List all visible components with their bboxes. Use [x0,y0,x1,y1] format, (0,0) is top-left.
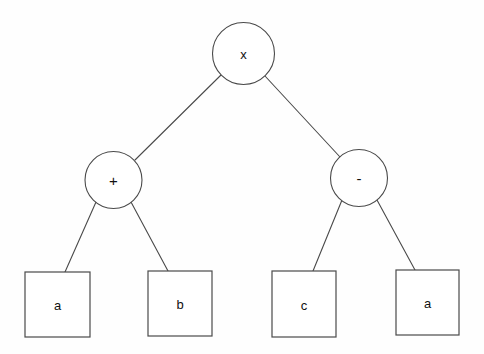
op-left-node-label: + [109,172,118,189]
node-leaf-a2[interactable]: a [396,270,459,335]
node-leaf-c[interactable]: c [272,271,336,337]
node-op-right[interactable]: - [331,150,388,207]
node-op-left[interactable]: + [85,152,142,209]
tree-canvas: x + - a b c a [0,0,484,354]
edge-root-to-op-right [265,76,340,157]
node-root[interactable]: x [213,23,275,85]
op-right-node-label: - [357,170,362,187]
edge-op-left-to-leaf-b [131,202,168,271]
leaf-c-label: c [301,298,308,313]
edge-op-left-to-leaf-a1 [65,202,96,272]
root-node-label: x [240,47,247,62]
edge-op-right-to-leaf-c [313,200,342,271]
leaf-a2-label: a [424,296,432,311]
leaf-b-label: b [176,297,183,312]
edge-root-to-op-left [135,75,221,160]
edge-op-right-to-leaf-a2 [377,200,415,270]
expression-tree-diagram: x + - a b c a [0,0,484,354]
node-leaf-a1[interactable]: a [25,272,90,337]
leaf-a1-label: a [54,298,62,313]
node-leaf-b[interactable]: b [148,271,212,336]
